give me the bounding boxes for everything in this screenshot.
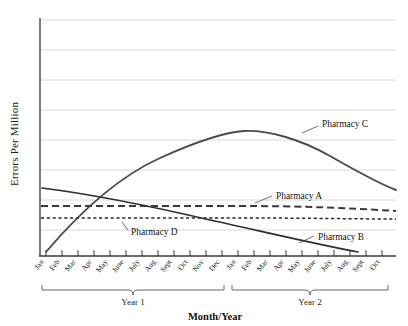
series-line-pharmacy-d (41, 218, 396, 219)
x-tick-label: Oct (176, 257, 190, 272)
leader-line-pharmacy-c (302, 126, 318, 133)
year-bracket-2 (232, 285, 388, 295)
year-bracket-1 (42, 285, 224, 295)
series-label-pharmacy-a: Pharmacy A (276, 191, 322, 201)
x-axis-ticks (46, 250, 382, 256)
x-tick-label: July (319, 258, 334, 274)
x-tick-label: Jan (224, 258, 237, 272)
year-group-label-2: Year 2 (298, 297, 321, 307)
x-tick-label: June (110, 257, 126, 274)
x-tick-label: Aug (334, 258, 349, 274)
leader-line-pharmacy-d (122, 222, 128, 230)
series-line-pharmacy-a (41, 206, 396, 211)
x-axis-title: Month/Year (188, 311, 243, 322)
x-tick-label: Feb (239, 258, 253, 273)
series-label-pharmacy-d: Pharmacy D (131, 227, 178, 237)
x-tick-label: Aug (142, 258, 157, 274)
series-label-pharmacy-b: Pharmacy B (318, 232, 364, 242)
x-tick-label: Sept (158, 257, 174, 274)
x-tick-label: May (286, 258, 302, 275)
x-tick-label: June (302, 257, 318, 274)
x-tick-label: Nov (190, 258, 205, 274)
x-axis-labels: Jan Feb Mar Apr May June July Aug Sept O… (32, 257, 382, 274)
x-tick-label: Feb (47, 258, 61, 273)
x-tick-label: Apr (271, 257, 286, 272)
x-tick-label: Dec (207, 257, 222, 273)
x-tick-label: Mar (63, 257, 78, 273)
x-tick-label: Sept (350, 257, 366, 274)
x-tick-label: Mar (255, 257, 270, 273)
x-tick-label: July (127, 258, 142, 274)
series-label-pharmacy-c: Pharmacy C (322, 119, 368, 129)
x-tick-label: May (94, 258, 110, 275)
line-chart: Errors Per Million (0, 0, 408, 326)
x-tick-label: Apr (79, 257, 94, 272)
y-axis-title: Errors Per Million (8, 101, 20, 186)
year-group-label-1: Year 1 (121, 297, 144, 307)
x-tick-label: Jan (32, 258, 45, 272)
x-tick-label: Oct (368, 257, 382, 272)
chart-container: Errors Per Million (0, 0, 408, 326)
